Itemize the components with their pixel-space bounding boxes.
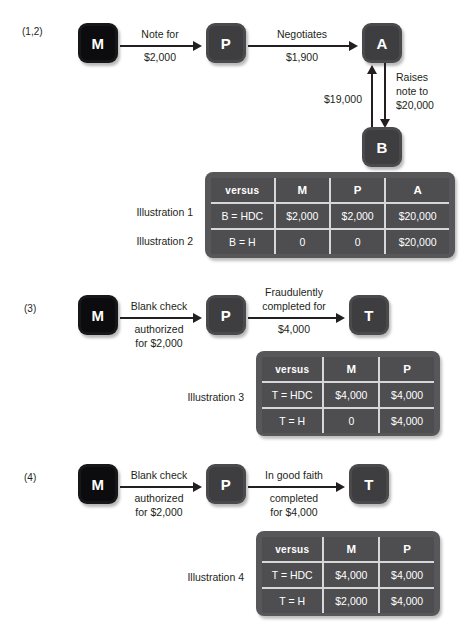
edge-label-a-to-b: Raises note to $20,000 <box>396 70 462 112</box>
table-cell-m: $2,000 <box>323 588 379 613</box>
node-p-section-1-2: P <box>206 23 246 63</box>
node-a-section-1-2: A <box>362 23 402 63</box>
diagram-canvas: (1,2) M Note for $2,000 P Negotiates $1,… <box>0 0 462 642</box>
table-cell-p: $4,000 <box>379 588 434 613</box>
node-t-section-3: T <box>349 295 389 335</box>
node-letter: B <box>376 139 387 156</box>
node-p-section-4: P <box>206 464 246 504</box>
node-letter: M <box>92 476 105 493</box>
table-header-versus: versus <box>262 537 323 562</box>
edge-label-m-to-p-below: $2,000 <box>125 50 195 64</box>
table-cell-case: B = H <box>211 229 275 254</box>
edge-label-p-to-a-above: Negotiates <box>253 27 351 41</box>
table-header-versus: versus <box>262 357 323 382</box>
edge-line-p-to-t-section-3 <box>248 317 338 319</box>
node-m-section-1-2: M <box>78 23 118 63</box>
edge-line-b-to-a <box>371 71 373 131</box>
table-header-row: versus M P A <box>211 178 449 203</box>
table-header-m: M <box>323 537 379 562</box>
edge-line-a-to-b <box>384 63 386 121</box>
table-cell-m: 0 <box>323 408 379 433</box>
edge-line-m-to-p-section-3 <box>120 317 195 319</box>
edge-line-p-to-a <box>248 45 351 47</box>
node-letter: P <box>221 307 231 324</box>
edge-label-p-to-t-below-section-4: completed for $4,000 <box>249 491 339 519</box>
table-row: T = HDC $4,000 $4,000 <box>262 562 434 588</box>
table-header-row: versus M P <box>262 537 434 562</box>
table-row: B = HDC $2,000 $2,000 $20,000 <box>211 203 449 229</box>
table-cell-m: $4,000 <box>323 562 379 588</box>
table-cell-a: $20,000 <box>385 229 449 254</box>
edge-label-m-to-p-below-section-4: authorized for $2,000 <box>118 491 200 519</box>
illustration-table-4: versus M P T = HDC $4,000 $4,000 T = H $… <box>256 531 440 616</box>
table-cell-p: 0 <box>330 229 385 254</box>
node-letter: P <box>221 476 231 493</box>
edge-label-m-to-p-below-section-3: authorized for $2,000 <box>118 322 200 350</box>
node-letter: T <box>364 307 373 324</box>
node-m-section-3: M <box>78 295 118 335</box>
node-letter: M <box>92 35 105 52</box>
edge-label-p-to-a-below: $1,900 <box>253 50 351 64</box>
table-cell-p: $4,000 <box>379 408 434 433</box>
row-label-illustration-4: Illustration 4 <box>131 571 244 583</box>
node-letter: T <box>364 476 373 493</box>
table-grid: versus M P A B = HDC $2,000 $2,000 $20,0… <box>211 178 449 254</box>
node-m-section-4: M <box>78 464 118 504</box>
table-row: T = H 0 $4,000 <box>262 408 434 433</box>
edge-line-m-to-p <box>120 45 195 47</box>
edge-label-p-to-t-above-section-4: In good faith <box>249 468 339 482</box>
table-header-versus: versus <box>211 178 275 203</box>
section-label-4: (4) <box>24 472 36 483</box>
table-cell-case: T = HDC <box>262 382 323 408</box>
table-cell-case: B = HDC <box>211 203 275 229</box>
node-letter: P <box>221 35 231 52</box>
section-label-3: (3) <box>24 303 36 314</box>
table-header-p: P <box>379 537 434 562</box>
edge-label-p-to-t-below-section-3: $4,000 <box>249 322 339 336</box>
table-cell-p: $4,000 <box>379 382 434 408</box>
table-header-m: M <box>275 178 330 203</box>
edge-label-m-to-p-above-section-3: Blank check <box>118 299 200 313</box>
table-header-a: A <box>385 178 449 203</box>
table-grid: versus M P T = HDC $4,000 $4,000 T = H $… <box>262 537 434 613</box>
edge-label-m-to-p-above-section-4: Blank check <box>118 468 200 482</box>
row-label-illustration-1: Illustration 1 <box>80 206 193 218</box>
row-label-illustration-2: Illustration 2 <box>80 235 193 247</box>
table-header-m: M <box>323 357 379 382</box>
edge-line-m-to-p-section-4 <box>120 486 195 488</box>
table-cell-case: T = HDC <box>262 562 323 588</box>
table-cell-case: T = H <box>262 588 323 613</box>
illustration-table-3: versus M P T = HDC $4,000 $4,000 T = H 0… <box>256 351 440 436</box>
node-t-section-4: T <box>349 464 389 504</box>
edge-arrowhead-b-to-a <box>367 65 377 74</box>
table-header-p: P <box>379 357 434 382</box>
node-b-section-1-2: B <box>362 127 402 167</box>
table-grid: versus M P T = HDC $4,000 $4,000 T = H 0… <box>262 357 434 433</box>
row-label-illustration-3: Illustration 3 <box>131 391 244 403</box>
table-row: B = H 0 0 $20,000 <box>211 229 449 254</box>
table-row: T = HDC $4,000 $4,000 <box>262 382 434 408</box>
table-header-row: versus M P <box>262 357 434 382</box>
node-p-section-3: P <box>206 295 246 335</box>
edge-label-b-to-a: $19,000 <box>286 92 362 106</box>
node-letter: A <box>376 35 387 52</box>
node-letter: M <box>92 307 105 324</box>
table-cell-m: 0 <box>275 229 330 254</box>
edge-line-p-to-t-section-4 <box>248 486 338 488</box>
table-cell-p: $2,000 <box>330 203 385 229</box>
table-cell-m: $4,000 <box>323 382 379 408</box>
table-cell-m: $2,000 <box>275 203 330 229</box>
illustration-table-1: versus M P A B = HDC $2,000 $2,000 $20,0… <box>205 172 455 258</box>
table-cell-case: T = H <box>262 408 323 433</box>
edge-label-m-to-p-above: Note for <box>125 27 195 41</box>
table-cell-a: $20,000 <box>385 203 449 229</box>
table-cell-p: $4,000 <box>379 562 434 588</box>
table-header-p: P <box>330 178 385 203</box>
section-label-1-2: (1,2) <box>22 26 43 37</box>
edge-label-p-to-t-above-section-3: Fraudulently completed for <box>249 285 339 313</box>
table-row: T = H $2,000 $4,000 <box>262 588 434 613</box>
